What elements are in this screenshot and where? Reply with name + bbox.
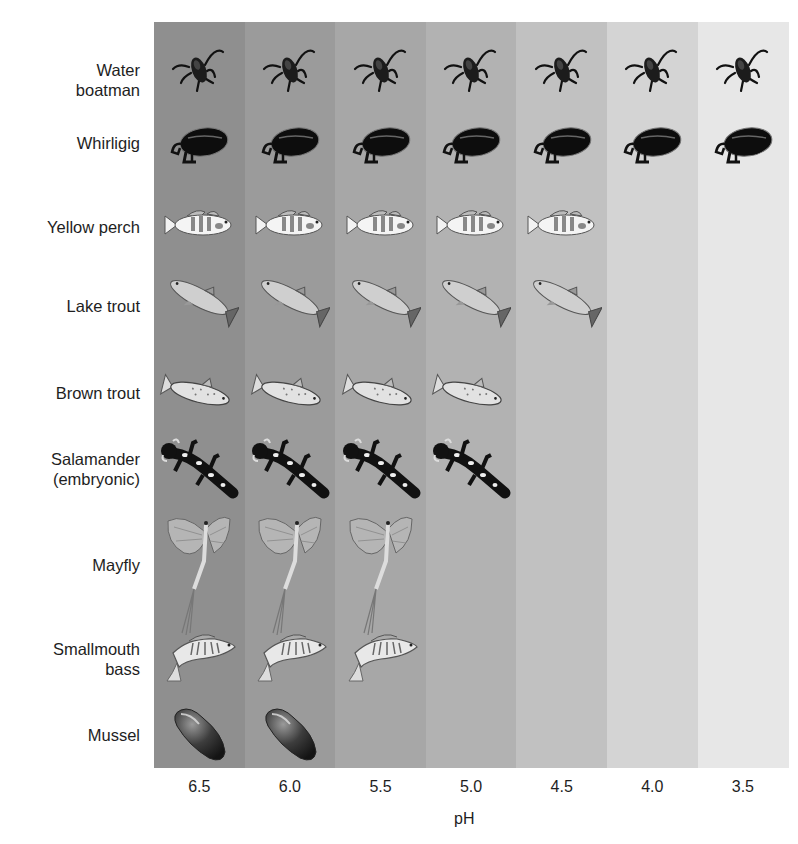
mussel-icon: [169, 704, 229, 770]
brown-trout-icon: [158, 371, 240, 419]
x-tick-label: 6.5: [169, 778, 229, 796]
water-boatman-icon: [441, 45, 501, 99]
water-boatman-icon: [532, 45, 592, 99]
lake-trout-icon: [522, 272, 602, 342]
salamander-icon: [431, 435, 511, 505]
x-tick-label: 4.0: [622, 778, 682, 796]
whirligig-beetle-icon: [529, 122, 595, 172]
row-label: Salamander (embryonic): [51, 449, 140, 489]
whirligig-beetle-icon: [710, 122, 776, 172]
row-label: Mayfly: [92, 555, 140, 575]
lake-trout-icon: [159, 272, 239, 342]
brown-trout-icon: [249, 371, 331, 419]
salamander-icon: [250, 435, 330, 505]
row-label: Whirligig: [77, 133, 140, 153]
salamander-icon: [159, 435, 239, 505]
salamander-icon: [341, 435, 421, 505]
water-boatman-icon: [351, 45, 411, 99]
whirligig-beetle-icon: [257, 122, 323, 172]
brown-trout-icon: [340, 371, 422, 419]
whirligig-beetle-icon: [166, 122, 232, 172]
chart-area: [154, 22, 788, 768]
whirligig-beetle-icon: [348, 122, 414, 172]
x-tick-label: 5.5: [351, 778, 411, 796]
smallmouth-bass-icon: [159, 627, 239, 693]
yellow-perch-icon: [161, 206, 237, 248]
x-axis-label: pH: [454, 810, 474, 828]
row-label: Brown trout: [56, 383, 140, 403]
row-label: Water boatman: [76, 60, 140, 100]
x-tick-label: 6.0: [260, 778, 320, 796]
yellow-perch-icon: [252, 206, 328, 248]
row-label: Mussel: [88, 725, 140, 745]
yellow-perch-icon: [343, 206, 419, 248]
lake-trout-icon: [431, 272, 511, 342]
whirligig-beetle-icon: [438, 122, 504, 172]
water-boatman-icon: [169, 45, 229, 99]
row-label: Smallmouth bass: [53, 639, 140, 679]
x-tick-label: 5.0: [441, 778, 501, 796]
x-tick-label: 4.5: [532, 778, 592, 796]
x-tick-label: 3.5: [713, 778, 773, 796]
yellow-perch-icon: [524, 206, 600, 248]
mussel-icon: [260, 704, 320, 770]
lake-trout-icon: [250, 272, 330, 342]
lake-trout-icon: [341, 272, 421, 342]
brown-trout-icon: [430, 371, 512, 419]
yellow-perch-icon: [433, 206, 509, 248]
row-label: Lake trout: [67, 296, 140, 316]
water-boatman-icon: [713, 45, 773, 99]
water-boatman-icon: [622, 45, 682, 99]
whirligig-beetle-icon: [619, 122, 685, 172]
smallmouth-bass-icon: [341, 627, 421, 693]
row-label: Yellow perch: [47, 217, 140, 237]
water-boatman-icon: [260, 45, 320, 99]
smallmouth-bass-icon: [250, 627, 330, 693]
